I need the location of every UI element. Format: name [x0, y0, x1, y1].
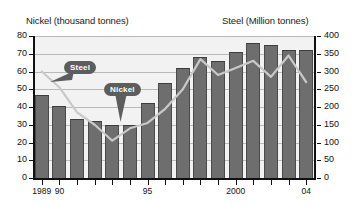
- left-tick-mark: [29, 107, 33, 108]
- left-tick-label: 0: [5, 172, 27, 182]
- plot-inner: [33, 36, 315, 178]
- x-tick-mark: [148, 180, 149, 185]
- right-tick-label: 200: [324, 101, 352, 111]
- right-tick-mark: [317, 54, 321, 55]
- x-tick-mark: [218, 180, 219, 185]
- x-axis-label: 2000: [220, 186, 252, 196]
- x-axis-label: 90: [43, 186, 75, 196]
- right-tick-mark: [317, 72, 321, 73]
- left-tick-mark: [29, 125, 33, 126]
- x-tick-mark: [112, 180, 113, 185]
- left-tick-mark: [29, 54, 33, 55]
- left-tick-label: 60: [5, 66, 27, 76]
- x-tick-mark: [42, 180, 43, 185]
- x-tick-mark: [59, 180, 60, 185]
- right-tick-label: 150: [324, 119, 352, 129]
- x-axis-line: [33, 178, 316, 180]
- left-tick-mark: [29, 178, 33, 179]
- x-tick-mark: [200, 180, 201, 185]
- x-tick-mark: [130, 180, 131, 185]
- right-tick-mark: [317, 160, 321, 161]
- right-tick-mark: [317, 178, 321, 179]
- x-tick-mark: [289, 180, 290, 185]
- x-tick-mark: [183, 180, 184, 185]
- chart-container: Nickel (thousand tonnes) Steel (Million …: [0, 0, 355, 216]
- x-tick-mark: [236, 180, 237, 185]
- x-tick-mark: [253, 180, 254, 185]
- x-axis-label: 04: [290, 186, 322, 196]
- right-tick-label: 0: [324, 172, 352, 182]
- right-tick-label: 100: [324, 137, 352, 147]
- left-tick-mark: [29, 72, 33, 73]
- left-tick-label: 40: [5, 101, 27, 111]
- right-axis-title: Steel (Million tonnes): [222, 15, 309, 26]
- right-tick-mark: [317, 125, 321, 126]
- left-axis-line: [33, 36, 35, 179]
- right-tick-label: 50: [324, 154, 352, 164]
- right-tick-label: 350: [324, 48, 352, 58]
- left-tick-label: 50: [5, 83, 27, 93]
- left-tick-label: 30: [5, 119, 27, 129]
- right-tick-label: 300: [324, 66, 352, 76]
- x-tick-mark: [165, 180, 166, 185]
- left-tick-mark: [29, 36, 33, 37]
- right-tick-mark: [317, 36, 321, 37]
- plot-area: [33, 36, 315, 178]
- callout-steel-tail: [48, 68, 74, 84]
- left-tick-label: 10: [5, 154, 27, 164]
- x-tick-mark: [271, 180, 272, 185]
- left-tick-label: 80: [5, 30, 27, 40]
- left-tick-mark: [29, 160, 33, 161]
- x-tick-mark: [77, 180, 78, 185]
- right-tick-mark: [317, 107, 321, 108]
- left-tick-label: 20: [5, 137, 27, 147]
- right-tick-label: 250: [324, 83, 352, 93]
- x-tick-mark: [306, 180, 307, 185]
- left-tick-mark: [29, 143, 33, 144]
- left-tick-label: 70: [5, 48, 27, 58]
- left-axis-title: Nickel (thousand tonnes): [26, 15, 129, 26]
- line-series-steel: [33, 36, 315, 178]
- x-tick-mark: [95, 180, 96, 185]
- right-axis-line: [314, 36, 316, 179]
- right-tick-mark: [317, 143, 321, 144]
- x-axis-label: 95: [132, 186, 164, 196]
- callout-nickel-tail: [113, 93, 129, 123]
- left-tick-mark: [29, 89, 33, 90]
- right-tick-label: 400: [324, 30, 352, 40]
- right-tick-mark: [317, 89, 321, 90]
